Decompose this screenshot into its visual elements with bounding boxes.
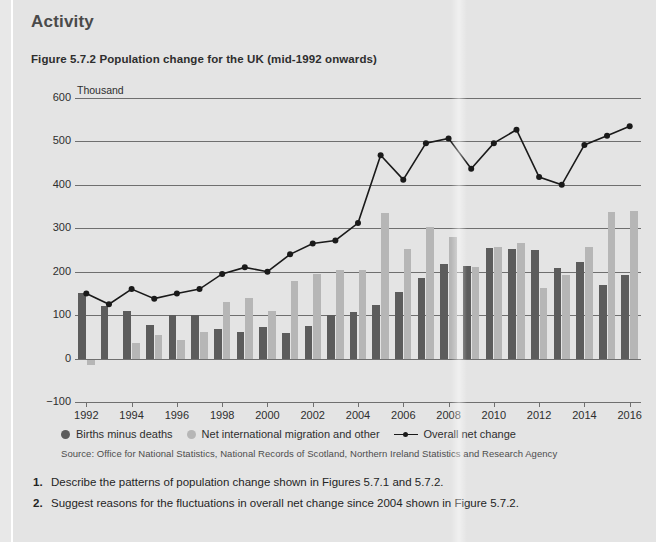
question-1: 1.Describe the patterns of population ch… <box>33 476 643 488</box>
y-axis-tick-labels: −1000100200300400500600 <box>31 98 71 402</box>
x-tick-label-2016: 2016 <box>617 409 641 421</box>
x-tick-label-2012: 2012 <box>527 409 551 421</box>
x-tick-mark-1994 <box>132 402 133 407</box>
net-change-point-2012 <box>536 174 542 180</box>
x-tick-label-1994: 1994 <box>119 409 143 421</box>
x-tick-label-2006: 2006 <box>391 409 415 421</box>
question-text: Describe the patterns of population chan… <box>51 476 643 488</box>
net-change-point-2015 <box>604 133 610 139</box>
y-tick-300: 300 <box>33 221 71 233</box>
legend-line-marker-icon <box>394 430 418 439</box>
y-tick-100: 100 <box>33 308 71 320</box>
x-tick-label-2010: 2010 <box>482 409 506 421</box>
y-tick-0: 0 <box>33 352 71 364</box>
net-change-point-1993 <box>106 301 112 307</box>
chart-source: Source: Office for National Statistics, … <box>61 448 557 459</box>
net-change-point-2007 <box>423 140 429 146</box>
net-change-point-1992 <box>83 290 89 296</box>
x-tick-label-2014: 2014 <box>572 409 596 421</box>
legend-label: Overall net change <box>424 428 516 440</box>
y-tick-400: 400 <box>33 178 71 190</box>
net-change-point-2013 <box>559 182 565 188</box>
net-change-point-1994 <box>129 286 135 292</box>
y-axis-unit-label: Thousand <box>77 84 124 96</box>
x-tick-mark-2016 <box>630 402 631 407</box>
net-change-point-2001 <box>287 251 293 257</box>
y-tick-600: 600 <box>33 91 71 103</box>
figure-title: Figure 5.7.2 Population change for the U… <box>31 53 377 65</box>
x-axis-tick-labels: 1992199419961998200020022004200620082010… <box>75 402 641 424</box>
x-tick-mark-2000 <box>267 402 268 407</box>
x-tick-mark-1996 <box>177 402 178 407</box>
activity-heading: Activity <box>31 12 94 32</box>
overall-net-change-line <box>75 98 641 402</box>
y-tick-200: 200 <box>33 265 71 277</box>
question-2: 2.Suggest reasons for the fluctuations i… <box>33 497 643 509</box>
plot-area <box>75 98 641 402</box>
x-tick-label-2002: 2002 <box>300 409 324 421</box>
y-tick-500: 500 <box>33 134 71 146</box>
net-change-point-1996 <box>174 290 180 296</box>
legend-dot-marker-icon <box>187 430 196 439</box>
net-change-point-2006 <box>400 177 406 183</box>
net-change-point-2016 <box>627 123 633 129</box>
net-change-point-2003 <box>332 237 338 243</box>
chart-legend: Births minus deathsNet international mig… <box>61 428 530 440</box>
activity-page: Activity Figure 5.7.2 Population change … <box>0 0 656 542</box>
x-tick-mark-2006 <box>403 402 404 407</box>
x-tick-mark-1992 <box>86 402 87 407</box>
net-change-point-1999 <box>242 264 248 270</box>
x-tick-label-1998: 1998 <box>210 409 234 421</box>
legend-label: Net international migration and other <box>202 428 380 440</box>
activity-panel: Activity Figure 5.7.2 Population change … <box>13 0 656 542</box>
net-change-point-2014 <box>581 142 587 148</box>
x-tick-label-2008: 2008 <box>436 409 460 421</box>
question-text: Suggest reasons for the fluctuations in … <box>51 497 643 509</box>
legend-item-2: Overall net change <box>394 428 516 440</box>
net-change-point-2009 <box>468 166 474 172</box>
net-change-point-2005 <box>378 152 384 158</box>
net-change-point-2004 <box>355 220 361 226</box>
question-number: 1. <box>33 476 51 488</box>
net-change-point-1998 <box>219 271 225 277</box>
population-change-chart: Thousand −1000100200300400500600 1992199… <box>31 84 643 424</box>
x-tick-mark-2004 <box>358 402 359 407</box>
question-number: 2. <box>33 497 51 509</box>
legend-item-0: Births minus deaths <box>61 428 173 440</box>
y-tick--100: −100 <box>33 395 71 407</box>
x-tick-mark-2002 <box>313 402 314 407</box>
net-change-point-1995 <box>151 296 157 302</box>
x-tick-label-2004: 2004 <box>346 409 370 421</box>
x-tick-label-1992: 1992 <box>74 409 98 421</box>
net-change-polyline <box>86 126 629 304</box>
legend-label: Births minus deaths <box>76 428 173 440</box>
net-change-point-2002 <box>310 240 316 246</box>
net-change-point-2010 <box>491 140 497 146</box>
net-change-point-1997 <box>197 286 203 292</box>
net-change-point-2011 <box>513 127 519 133</box>
x-tick-mark-2014 <box>584 402 585 407</box>
net-change-point-2000 <box>264 269 270 275</box>
x-tick-mark-2008 <box>449 402 450 407</box>
x-tick-mark-1998 <box>222 402 223 407</box>
legend-dot-marker-icon <box>61 430 70 439</box>
legend-item-1: Net international migration and other <box>187 428 380 440</box>
x-tick-label-2000: 2000 <box>255 409 279 421</box>
activity-questions: 1.Describe the patterns of population ch… <box>33 476 643 518</box>
net-change-point-2008 <box>446 135 452 141</box>
x-tick-mark-2010 <box>494 402 495 407</box>
x-tick-label-1996: 1996 <box>165 409 189 421</box>
x-tick-mark-2012 <box>539 402 540 407</box>
